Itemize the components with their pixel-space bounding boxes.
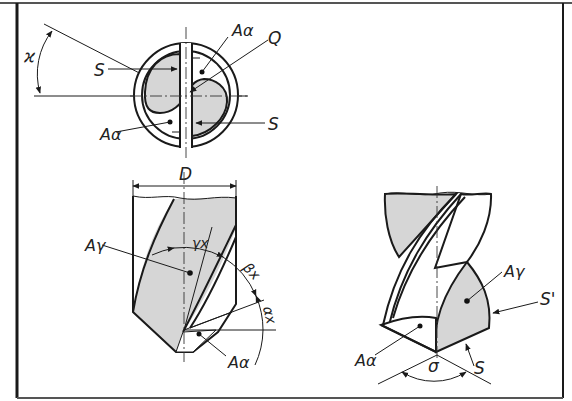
label-minor-edge: S' xyxy=(540,289,555,309)
label-rake-face-side: Aγ xyxy=(84,236,107,255)
label-chisel-q: Q xyxy=(268,28,281,48)
label-point-angle: σ xyxy=(428,356,440,376)
diagram-canvas: ϰ S S Aα Aα Q D xyxy=(0,0,572,401)
twist-drill-diagram: ϰ S S Aα Aα Q D xyxy=(0,0,572,401)
angle-kappa-label: ϰ xyxy=(23,46,36,66)
label-diameter: D xyxy=(179,164,192,184)
label-rake-face-perspective: Aγ xyxy=(503,262,526,281)
angle-kappa-arc xyxy=(37,31,52,93)
label-wedge-angle: βx xyxy=(239,259,264,284)
label-main-edge: S xyxy=(474,358,485,378)
label-rake-angle: γx xyxy=(192,235,209,251)
drill-end-view: ϰ S S Aα Aα Q xyxy=(23,21,281,158)
label-flank-bottom: Aα xyxy=(99,125,122,144)
label-flank-face-perspective: Aα xyxy=(354,351,377,370)
label-flank-face-side: Aα xyxy=(227,353,250,372)
label-s-right: S xyxy=(268,114,279,134)
label-flank-top: Aα xyxy=(231,21,254,40)
drill-perspective-view: σ Aγ Aα S' S xyxy=(354,186,555,384)
label-s-left: S xyxy=(94,60,105,80)
drill-side-view: D Aγ γx βx αx Aα xyxy=(84,164,280,372)
